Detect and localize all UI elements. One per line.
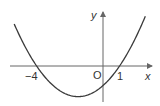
x-intercept-label-neg4: −4 [25,70,38,82]
x-intercept-label-1: 1 [117,70,123,82]
origin-label: O [93,69,102,81]
x-axis-label: x [144,70,151,82]
parabola-diagram: y x O −4 1 [0,0,160,106]
parabola-curve [14,16,145,96]
y-axis-label: y [90,9,98,21]
